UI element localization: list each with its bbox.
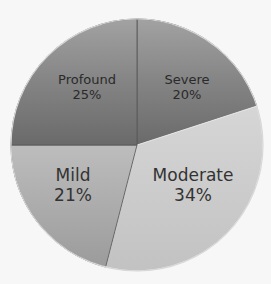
label-profound: Profound 25% (58, 73, 116, 103)
label-profound-pct: 25% (58, 88, 116, 103)
label-mild-pct: 21% (54, 186, 92, 206)
pie-chart (0, 0, 271, 284)
label-moderate-name: Moderate (153, 166, 234, 186)
label-severe: Severe 20% (165, 73, 210, 103)
label-profound-name: Profound (58, 73, 116, 88)
label-mild-name: Mild (54, 166, 92, 186)
label-severe-pct: 20% (165, 88, 210, 103)
label-moderate: Moderate 34% (153, 166, 234, 205)
label-severe-name: Severe (165, 73, 210, 88)
label-moderate-pct: 34% (153, 186, 234, 206)
label-mild: Mild 21% (54, 166, 92, 205)
